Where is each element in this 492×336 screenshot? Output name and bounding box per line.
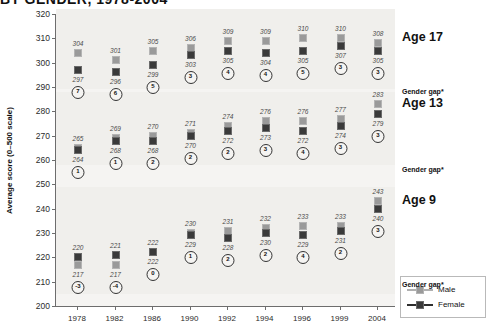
data-point-male — [299, 222, 307, 230]
x-tick-label: 1996 — [293, 314, 311, 323]
y-tick-label: 220 — [4, 252, 56, 262]
value-label-female: 273 — [260, 134, 271, 141]
data-point-male — [74, 261, 82, 269]
value-label-female: 304 — [260, 59, 271, 66]
gender-gap-badge: 2 — [184, 152, 197, 165]
chart-title: BY GENDER, 1978-2004 — [0, 0, 168, 7]
y-tick-mark — [52, 233, 56, 234]
y-tick-mark — [52, 38, 56, 39]
value-label-male: 231 — [223, 218, 234, 225]
x-tick-label: 1978 — [68, 314, 86, 323]
y-tick-label: 230 — [4, 228, 56, 238]
value-label-female: 299 — [148, 71, 159, 78]
gender-gap-badge: 5 — [297, 67, 310, 80]
value-label-male: 304 — [73, 40, 84, 47]
value-label-male: 306 — [185, 35, 196, 42]
data-point-female — [187, 51, 195, 59]
group-title-age-9: Age 9 — [402, 193, 436, 207]
gender-gap-badge: 1 — [109, 157, 122, 170]
data-point-female — [149, 248, 157, 256]
data-point-female — [224, 47, 232, 55]
value-label-male: 305 — [148, 38, 159, 45]
data-point-male — [299, 34, 307, 42]
value-label-female: 307 — [335, 52, 346, 59]
value-label-female: 272 — [223, 137, 234, 144]
value-label-female: 297 — [73, 76, 84, 83]
value-label-male: 310 — [298, 25, 309, 32]
value-label-female: 268 — [110, 147, 121, 154]
gender-gap-badge: 3 — [334, 62, 347, 75]
data-point-female — [299, 231, 307, 239]
y-tick-mark — [52, 184, 56, 185]
gender-gap-badge: 3 — [334, 142, 347, 155]
gender-gap-badge: 3 — [184, 71, 197, 84]
gender-gap-badge: 0 — [147, 268, 160, 281]
data-point-male — [374, 100, 382, 108]
gender-gap-badge: 3 — [259, 144, 272, 157]
value-label-female: 221 — [110, 242, 121, 249]
value-label-male: 233 — [335, 213, 346, 220]
x-tick-mark — [265, 306, 266, 310]
gender-gap-badge: 5 — [147, 81, 160, 94]
value-label-male: 265 — [73, 135, 84, 142]
x-tick-label: 1992 — [218, 314, 236, 323]
legend-item-female: Female — [407, 297, 479, 312]
data-point-female — [262, 49, 270, 57]
y-tick-mark — [52, 209, 56, 210]
y-tick-label: 320 — [4, 9, 56, 19]
data-point-male — [149, 47, 157, 55]
gender-gap-badge: 4 — [259, 69, 272, 82]
value-label-female: 268 — [148, 147, 159, 154]
data-point-female — [112, 137, 120, 145]
value-label-female: 220 — [73, 244, 84, 251]
x-tick-mark — [152, 306, 153, 310]
x-tick-label: 1994 — [256, 314, 274, 323]
gender-gap-badge: 2 — [259, 249, 272, 262]
data-point-male — [74, 49, 82, 57]
data-point-male — [262, 37, 270, 45]
data-point-male — [299, 117, 307, 125]
x-tick-label: 1999 — [331, 314, 349, 323]
legend-swatch-female — [407, 301, 433, 309]
y-tick-mark — [52, 87, 56, 88]
y-tick-label: 290 — [4, 82, 56, 92]
y-tick-mark — [52, 282, 56, 283]
y-tick-label: 280 — [4, 106, 56, 116]
data-point-female — [112, 68, 120, 76]
group-title-age-13: Age 13 — [402, 96, 443, 110]
gender-gap-badge: 1 — [184, 251, 197, 264]
gender-gap-badge: 6 — [109, 88, 122, 101]
data-point-female — [149, 137, 157, 145]
value-label-female: 228 — [223, 244, 234, 251]
data-point-male — [224, 37, 232, 45]
y-tick-mark — [52, 160, 56, 161]
data-point-female — [262, 229, 270, 237]
y-tick-label: 270 — [4, 131, 56, 141]
data-point-female — [374, 205, 382, 213]
gender-gap-badge: 2 — [334, 247, 347, 260]
y-tick-mark — [52, 14, 56, 15]
value-label-male: 269 — [110, 125, 121, 132]
gender-gap-badge: 3 — [372, 67, 385, 80]
gender-gap-badge: 7 — [72, 86, 85, 99]
value-label-female: 272 — [298, 137, 309, 144]
data-point-female — [262, 124, 270, 132]
y-tick-mark — [52, 257, 56, 258]
value-label-female: 305 — [373, 57, 384, 64]
value-label-female: 270 — [185, 142, 196, 149]
gender-gap-badge: 4 — [297, 147, 310, 160]
value-label-male: 277 — [335, 106, 346, 113]
value-label-male: 233 — [298, 213, 309, 220]
x-tick-mark — [302, 306, 303, 310]
gender-gap-badge: 4 — [297, 251, 310, 264]
y-tick-label: 310 — [4, 33, 56, 43]
value-label-female: 303 — [185, 61, 196, 68]
data-point-female — [74, 146, 82, 154]
value-label-male: 309 — [260, 28, 271, 35]
y-tick-label: 300 — [4, 58, 56, 68]
data-point-female — [187, 231, 195, 239]
y-tick-mark — [52, 111, 56, 112]
value-label-female: 240 — [373, 215, 384, 222]
value-label-female: 274 — [335, 132, 346, 139]
chart-container: BY GENDER, 1978-2004 Average score (0–50… — [0, 0, 492, 336]
